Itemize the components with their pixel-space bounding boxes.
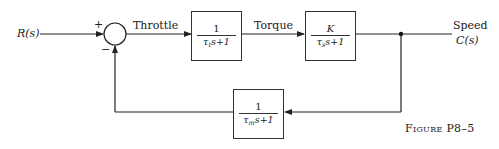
block-denominator: τms+1 xyxy=(243,115,273,127)
torque-label: Torque xyxy=(254,20,293,31)
output-label: C(s) xyxy=(456,35,479,46)
feedback-transfer-block: 1 τms+1 xyxy=(233,89,284,139)
figure-caption: Figure P8–5 xyxy=(405,123,474,134)
summing-junction xyxy=(104,23,126,45)
minus-sign: − xyxy=(101,44,110,55)
block-denominator: τts+1 xyxy=(203,37,230,49)
speed-label: Speed xyxy=(453,20,488,31)
input-label: R(s) xyxy=(17,28,40,39)
engine-transfer-block: K τss+1 xyxy=(305,11,356,61)
plus-sign: + xyxy=(94,19,103,30)
block-numerator: K xyxy=(324,23,337,34)
throttle-transfer-block: 1 τts+1 xyxy=(191,11,242,61)
throttle-label: Throttle xyxy=(133,20,178,31)
block-denominator: τss+1 xyxy=(317,37,345,49)
block-numerator: 1 xyxy=(210,23,222,34)
block-numerator: 1 xyxy=(252,101,264,112)
